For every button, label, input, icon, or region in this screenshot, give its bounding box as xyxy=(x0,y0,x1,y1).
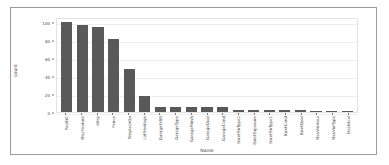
x-label-slot: BsmtQual xyxy=(293,116,309,148)
x-tick-slot xyxy=(74,113,90,115)
x-axis-tick-label: MasVnrArea xyxy=(314,116,319,140)
bar[interactable] xyxy=(248,110,259,112)
x-label-slot: Fence xyxy=(105,116,121,148)
y-axis-tickmark xyxy=(52,58,54,59)
bar-slot xyxy=(184,19,200,112)
x-axis-tickmarks xyxy=(56,113,358,115)
bar[interactable] xyxy=(108,39,119,112)
bar-slot xyxy=(199,19,215,112)
bar[interactable] xyxy=(279,110,290,112)
bar-slot xyxy=(293,19,309,112)
bar-slot xyxy=(168,19,184,112)
y-axis-tick-label: 100 xyxy=(42,20,50,25)
x-tick-slot xyxy=(136,113,152,115)
y-axis-tickmark xyxy=(52,40,54,41)
x-label-slot: LotFrontage xyxy=(136,116,152,148)
x-axis-tick-label: Electrical xyxy=(346,116,351,134)
bar-slot xyxy=(277,19,293,112)
bar-slot xyxy=(90,19,106,112)
bar-slot xyxy=(230,19,246,112)
bar[interactable] xyxy=(124,69,135,112)
x-axis-labels: PoolQCMiscFeatureAlleyFenceFireplaceQuLo… xyxy=(56,116,358,148)
bar[interactable] xyxy=(155,107,166,112)
x-axis-tickmark xyxy=(175,113,176,115)
bar-chart-figure: count 020406080100 PoolQCMiscFeatureAlle… xyxy=(11,8,376,154)
y-axis-tickmark xyxy=(52,76,54,77)
x-axis-tick-label: BsmtExposure xyxy=(252,116,257,145)
x-axis-tickmark xyxy=(301,113,302,115)
y-axis-tick-label: 20 xyxy=(45,92,50,97)
x-tick-slot xyxy=(184,113,200,115)
bar[interactable] xyxy=(217,107,228,112)
bar[interactable] xyxy=(77,25,88,112)
x-axis-tick-label: LotFrontage xyxy=(142,116,147,140)
bar-slot xyxy=(137,19,153,112)
bar[interactable] xyxy=(201,107,212,112)
bar-slot xyxy=(339,19,355,112)
x-axis-tick-label: MiscFeature xyxy=(79,116,84,140)
x-label-slot: Alley xyxy=(89,116,105,148)
x-axis-tickmark xyxy=(97,113,98,115)
y-axis-tick-label: 40 xyxy=(45,74,50,79)
bar[interactable] xyxy=(310,111,321,112)
x-axis-tick-label: GarageQual xyxy=(205,116,210,140)
x-label-slot: GarageQual xyxy=(199,116,215,148)
plot-area xyxy=(56,18,358,113)
y-axis-title: count xyxy=(13,64,18,77)
x-label-slot: MasVnrArea xyxy=(309,116,325,148)
x-label-slot: Electrical xyxy=(340,116,356,148)
x-axis-tickmark xyxy=(222,113,223,115)
bar[interactable] xyxy=(170,107,181,112)
x-axis-tickmark xyxy=(81,113,82,115)
bar[interactable] xyxy=(326,111,337,112)
x-label-slot: FireplaceQu xyxy=(121,116,137,148)
y-axis: count 020406080100 xyxy=(11,18,54,113)
x-axis-tick-label: FireplaceQu xyxy=(126,116,131,140)
x-label-slot: BsmtExposure xyxy=(246,116,262,148)
x-label-slot: MiscFeature xyxy=(74,116,90,148)
bar[interactable] xyxy=(342,111,353,112)
x-axis-tickmark xyxy=(238,113,239,115)
bar[interactable] xyxy=(295,110,306,112)
bar-slot xyxy=(262,19,278,112)
x-label-slot: BsmtFinType2 xyxy=(231,116,247,148)
x-axis-tick-label: BsmtFinType2 xyxy=(236,116,241,144)
x-tick-slot xyxy=(340,113,356,115)
x-axis-tick-label: BsmtCond xyxy=(283,116,288,137)
y-axis-tick-label: 60 xyxy=(45,56,50,61)
bar[interactable] xyxy=(139,96,150,112)
x-axis-tickmark xyxy=(65,113,66,115)
y-axis-tick-label: 80 xyxy=(45,38,50,43)
bar[interactable] xyxy=(186,107,197,112)
x-axis-tickmark xyxy=(269,113,270,115)
x-axis-tickmark xyxy=(316,113,317,115)
y-axis-tick-label: 0 xyxy=(47,111,50,116)
bar-slot xyxy=(59,19,75,112)
x-tick-slot xyxy=(58,113,74,115)
bar-slot xyxy=(121,19,137,112)
x-label-slot: PoolQC xyxy=(58,116,74,148)
x-label-slot: BsmtFinType1 xyxy=(262,116,278,148)
bar-slot xyxy=(308,19,324,112)
x-axis-tickmark xyxy=(159,113,160,115)
x-tick-slot xyxy=(309,113,325,115)
bar-slot xyxy=(152,19,168,112)
bar[interactable] xyxy=(92,27,103,112)
x-axis-tick-label: BsmtFinType1 xyxy=(267,116,272,144)
bar-slot xyxy=(324,19,340,112)
x-tick-slot xyxy=(152,113,168,115)
figure-border: count 020406080100 PoolQCMiscFeatureAlle… xyxy=(10,7,377,155)
x-axis-tickmark xyxy=(144,113,145,115)
x-axis-tickmark xyxy=(112,113,113,115)
bar[interactable] xyxy=(233,110,244,112)
x-tick-slot xyxy=(262,113,278,115)
x-label-slot: GarageFinish xyxy=(184,116,200,148)
bar[interactable] xyxy=(264,110,275,112)
x-axis-tick-label: GarageFinish xyxy=(189,116,194,142)
x-tick-slot xyxy=(215,113,231,115)
x-tick-slot xyxy=(89,113,105,115)
y-axis-tickmark xyxy=(52,113,54,114)
x-label-slot: GarageCond xyxy=(215,116,231,148)
x-tick-slot xyxy=(293,113,309,115)
bar[interactable] xyxy=(61,22,72,112)
